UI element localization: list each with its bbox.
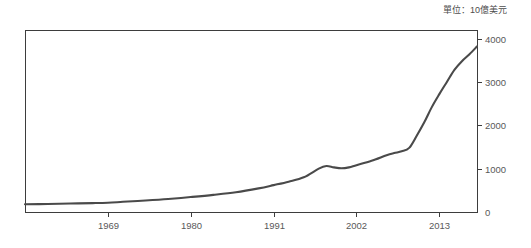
y-tick-label: 3000 bbox=[485, 77, 506, 88]
y-tick-label: 1000 bbox=[485, 164, 506, 175]
x-axis-tick-labels: 19691980199120022013 bbox=[98, 220, 450, 231]
x-tick-label: 1980 bbox=[181, 220, 202, 231]
x-tick-label: 2002 bbox=[346, 220, 367, 231]
x-tick-label: 1991 bbox=[264, 220, 285, 231]
x-tick-label: 2013 bbox=[429, 220, 450, 231]
line-chart-svg: 19691980199120022013 01000200030004000 bbox=[0, 0, 531, 248]
plot-frame bbox=[26, 31, 478, 213]
plot-area: 19691980199120022013 01000200030004000 bbox=[0, 0, 531, 248]
x-tick-label: 1969 bbox=[98, 220, 119, 231]
y-axis-tick-labels: 01000200030004000 bbox=[485, 34, 506, 218]
chart-figure: 單位：10億美元 19691980199120022013 0100020003… bbox=[0, 0, 531, 248]
y-tick-label: 0 bbox=[485, 207, 490, 218]
y-tick-label: 4000 bbox=[485, 34, 506, 45]
y-tick-label: 2000 bbox=[485, 120, 506, 131]
